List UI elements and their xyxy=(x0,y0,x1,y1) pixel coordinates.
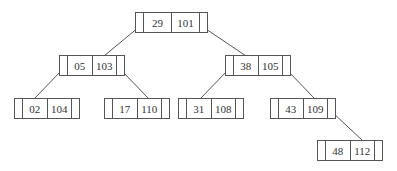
node-key: 38 xyxy=(234,56,259,75)
left-pointer-field xyxy=(105,99,113,118)
right-pointer-field xyxy=(327,99,335,118)
tree-node: 43 109 xyxy=(270,98,336,119)
tree-edge-n38-n31 xyxy=(200,70,228,99)
tree-node-root: 29 101 xyxy=(135,12,208,33)
tree-node-leaf: 31 108 xyxy=(178,98,244,119)
node-key: 17 xyxy=(113,99,138,118)
node-key: 31 xyxy=(187,99,212,118)
node-key: 29 xyxy=(144,13,172,32)
tree-edge-n43-n48 xyxy=(332,112,363,141)
node-value: 101 xyxy=(172,13,199,32)
node-value: 103 xyxy=(93,56,117,75)
tree-edge-n38-n43 xyxy=(287,70,315,99)
left-pointer-field xyxy=(15,99,23,118)
node-key: 05 xyxy=(68,56,93,75)
node-value: 110 xyxy=(138,99,162,118)
right-pointer-field xyxy=(282,56,290,75)
node-key: 48 xyxy=(326,141,351,160)
tree-edge-n05-n17 xyxy=(121,70,149,99)
tree-edge-root-n05 xyxy=(104,27,139,56)
node-key: 02 xyxy=(23,99,48,118)
node-key: 43 xyxy=(279,99,304,118)
node-value: 105 xyxy=(259,56,283,75)
tree-node: 05 103 xyxy=(59,55,125,76)
tree-node-leaf: 48 112 xyxy=(317,140,383,161)
node-value: 104 xyxy=(48,99,72,118)
left-pointer-field xyxy=(226,56,234,75)
tree-diagram: 29 101 05 103 38 105 02 104 17 110 31 10… xyxy=(0,0,397,171)
tree-node-leaf: 17 110 xyxy=(104,98,170,119)
left-pointer-field xyxy=(179,99,187,118)
right-pointer-field xyxy=(199,13,207,32)
node-value: 109 xyxy=(304,99,328,118)
left-pointer-field xyxy=(60,56,68,75)
right-pointer-field xyxy=(116,56,124,75)
right-pointer-field xyxy=(71,99,79,118)
node-value: 108 xyxy=(212,99,236,118)
right-pointer-field xyxy=(161,99,169,118)
tree-node-leaf: 02 104 xyxy=(14,98,80,119)
left-pointer-field xyxy=(136,13,144,32)
left-pointer-field xyxy=(271,99,279,118)
tree-edge-root-n38 xyxy=(203,27,246,56)
tree-node: 38 105 xyxy=(225,55,291,76)
right-pointer-field xyxy=(374,141,382,160)
left-pointer-field xyxy=(318,141,326,160)
node-value: 112 xyxy=(351,141,375,160)
tree-edge-n05-n02 xyxy=(34,70,62,99)
right-pointer-field xyxy=(235,99,243,118)
